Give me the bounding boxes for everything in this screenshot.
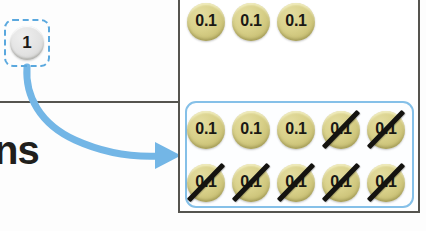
disc[interactable]: 0.1	[277, 111, 315, 149]
disc-label: 0.1	[195, 13, 216, 29]
token-label: 1	[22, 34, 31, 51]
disc[interactable]: 0.1	[232, 3, 270, 41]
disc-label: 0.1	[285, 121, 306, 137]
disc[interactable]: 0.1	[187, 111, 225, 149]
worksheet-canvas: ns 1 0.1 0.1 0.1 0.1 0.1 0.1 0.1 0.1 0.1	[0, 0, 426, 231]
disc[interactable]: 0.1	[232, 111, 270, 149]
disc-label: 0.1	[240, 13, 261, 29]
disc[interactable]: 0.1	[187, 3, 225, 41]
disc-label: 0.1	[240, 121, 261, 137]
disc[interactable]: 0.1	[277, 3, 315, 41]
circle-token-icon[interactable]: 1	[10, 26, 44, 60]
worksheet-cropped-word: ns	[0, 130, 39, 170]
disc-label: 0.1	[195, 121, 216, 137]
worksheet-divider	[0, 101, 178, 103]
disc-label: 0.1	[285, 13, 306, 29]
